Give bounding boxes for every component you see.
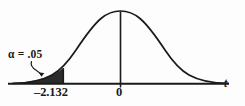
center-tick-label: 0: [116, 86, 122, 99]
rejection-region-shading: [14, 69, 64, 84]
axis-variable-label: t: [224, 78, 227, 90]
t-distribution-figure: α = .05 –2.132 0 t: [0, 0, 245, 106]
alpha-annotation-label: α = .05: [8, 49, 43, 61]
critical-value-tick-label: –2.132: [34, 86, 68, 99]
alpha-callout-arrowhead: [39, 73, 44, 77]
